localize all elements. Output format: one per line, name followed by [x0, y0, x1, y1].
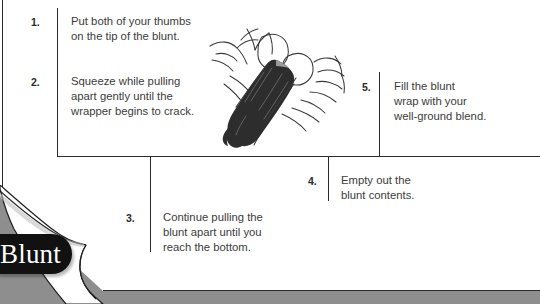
step-text-1: Put both of your thumbs on the tip of th… [71, 14, 221, 44]
step-number-4: 4. [308, 175, 317, 187]
rule-horizontal-main [57, 156, 540, 157]
step-text-2: Squeeze while pulling apart gently until… [71, 74, 223, 120]
blunt-tab: Blunt [0, 234, 72, 274]
instruction-diagram-page: 1. Put both of your thumbs on the tip of… [0, 0, 540, 304]
step-number-1: 1. [31, 16, 40, 28]
step-text-5: Fill the blunt wrap with your well-groun… [394, 79, 524, 125]
rule-vertical-step-4 [328, 156, 329, 201]
rule-vertical-step-3 [150, 156, 151, 252]
step-number-3: 3. [126, 212, 135, 224]
step-text-3: Continue pulling the blunt apart until y… [163, 210, 303, 256]
blunt-tab-label: Blunt [0, 241, 61, 268]
step-number-2: 2. [31, 76, 40, 88]
rule-vertical-step-5 [379, 72, 380, 157]
step-text-4: Empty out the blunt contents. [341, 173, 461, 203]
sheet-left-border [2, 0, 3, 200]
sheet-bottom-border [103, 290, 540, 291]
hands-splitting-blunt-illustration [206, 12, 348, 152]
rule-vertical-steps-1-2 [57, 8, 58, 157]
step-number-5: 5. [362, 81, 371, 93]
